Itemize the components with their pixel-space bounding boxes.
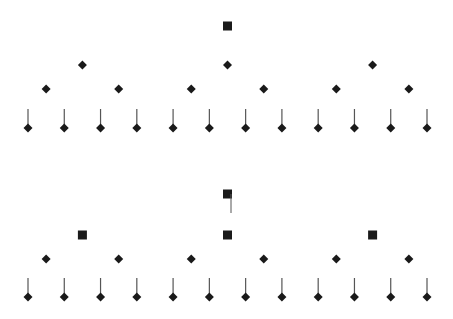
diamond-node [332,255,341,264]
square-node [223,22,232,31]
leaf-diamond-node [60,293,69,302]
diamond-node [368,61,377,70]
diamond-node [114,85,123,94]
diamond-node [187,255,196,264]
diamond-node [78,61,87,70]
leaf-diamond-node [96,124,105,133]
upper-tree [24,22,432,133]
leaf-diamond-node [60,124,69,133]
diamond-node [404,85,413,94]
diamond-node [259,85,268,94]
leaf-diamond-node [132,293,141,302]
leaf-diamond-node [386,293,395,302]
square-node [368,231,377,240]
leaf-diamond-node [169,124,178,133]
diamond-node [404,255,413,264]
leaf-diamond-node [241,124,250,133]
leaf-diamond-node [132,124,141,133]
diamond-node [42,255,51,264]
leaf-diamond-node [277,124,286,133]
lower-tree [24,190,432,302]
diamond-node [114,255,123,264]
diamond-node [42,85,51,94]
diamond-node [332,85,341,94]
square-node [223,231,232,240]
leaf-diamond-node [314,293,323,302]
diamond-node [223,61,232,70]
leaf-diamond-node [24,293,33,302]
tree-diagram [0,0,453,319]
leaf-diamond-node [205,124,214,133]
leaf-diamond-node [241,293,250,302]
leaf-diamond-node [386,124,395,133]
diamond-node [259,255,268,264]
leaf-diamond-node [205,293,214,302]
leaf-diamond-node [96,293,105,302]
leaf-diamond-node [169,293,178,302]
diamond-node [187,85,196,94]
square-node [78,231,87,240]
leaf-diamond-node [350,124,359,133]
leaf-diamond-node [350,293,359,302]
leaf-diamond-node [277,293,286,302]
leaf-diamond-node [423,293,432,302]
leaf-diamond-node [314,124,323,133]
leaf-diamond-node [423,124,432,133]
leaf-diamond-node [24,124,33,133]
